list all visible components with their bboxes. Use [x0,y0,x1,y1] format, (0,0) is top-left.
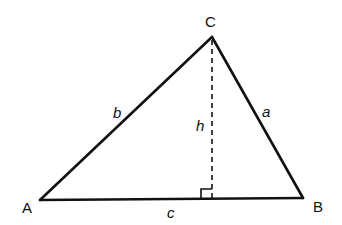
triangle-diagram: C A B b a c h [0,0,342,225]
side-label-c: c [167,204,175,221]
side-a-line [212,37,303,198]
side-c-line [40,198,303,200]
side-label-a: a [262,103,270,120]
side-label-b: b [113,104,121,121]
vertex-label-a: A [22,199,32,216]
vertex-label-c: C [205,13,216,30]
side-b-line [40,37,212,200]
vertex-label-b: B [313,198,323,215]
altitude-label-h: h [196,117,204,134]
